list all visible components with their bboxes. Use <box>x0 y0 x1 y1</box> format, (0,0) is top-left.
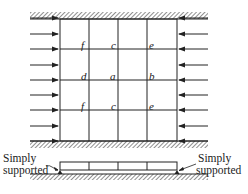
node-label-e-top: e <box>149 40 154 51</box>
support-label-right: Simply supported <box>196 152 241 176</box>
node-label-c-top: c <box>111 40 116 51</box>
support-left-line1: Simply <box>3 152 48 164</box>
edge-view-beam <box>60 162 177 170</box>
ground-hatch <box>30 174 208 180</box>
support-pins <box>58 170 180 174</box>
plate-grid <box>60 19 177 141</box>
node-label-f-top: f <box>81 40 84 51</box>
node-label-b: b <box>149 71 155 82</box>
node-label-c-bottom: c <box>111 101 116 112</box>
node-label-f-bottom: f <box>81 101 84 112</box>
support-right-line2: supported <box>196 164 241 176</box>
node-label-d: d <box>81 71 87 82</box>
left-compression-arrows <box>30 18 58 141</box>
node-label-a: a <box>110 71 116 82</box>
support-label-left: Simply supported <box>3 152 48 176</box>
node-label-e-bottom: e <box>149 101 154 112</box>
support-left-line2: supported <box>3 164 48 176</box>
right-compression-arrows <box>179 18 208 141</box>
bottom-clamped-edge <box>30 141 208 148</box>
support-right-line1: Simply <box>196 152 241 164</box>
